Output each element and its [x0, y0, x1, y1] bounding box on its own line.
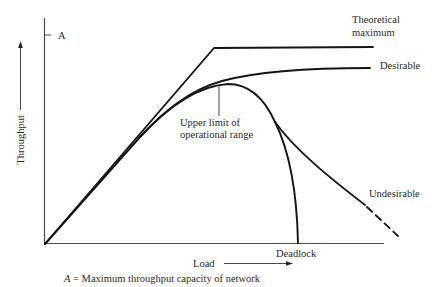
undesirable-dashed-extension	[367, 207, 398, 236]
desirable-curve	[45, 68, 370, 244]
y-label-arrow-icon	[18, 41, 23, 48]
desirable-label: Desirable	[380, 60, 421, 71]
caption: A = Maximum throughput capacity of netwo…	[63, 273, 261, 284]
upper-limit-label-2: operational range	[180, 129, 254, 140]
throughput-load-diagram: A Throughput Theoretical maximum Desirab…	[0, 0, 440, 287]
upper-limit-label-1: Upper limit of	[180, 117, 241, 128]
theoretical-maximum-label-2: maximum	[352, 27, 395, 38]
deadlock-curve	[275, 122, 298, 243]
y-tick-label: A	[58, 30, 66, 41]
x-axis-label: Load	[193, 258, 215, 269]
theoretical-maximum-label: Theoretical	[352, 14, 400, 25]
y-axis-label-group: Throughput	[15, 41, 26, 165]
theoretical-maximum-curve	[45, 47, 373, 244]
y-axis-label: Throughput	[15, 115, 26, 165]
x-label-arrow-icon	[286, 261, 293, 265]
caption-text: = Maximum throughput capacity of network	[70, 273, 260, 284]
undesirable-label: Undesirable	[369, 188, 420, 199]
deadlock-label: Deadlock	[276, 248, 317, 259]
x-axis-label-group: Load	[193, 258, 293, 269]
